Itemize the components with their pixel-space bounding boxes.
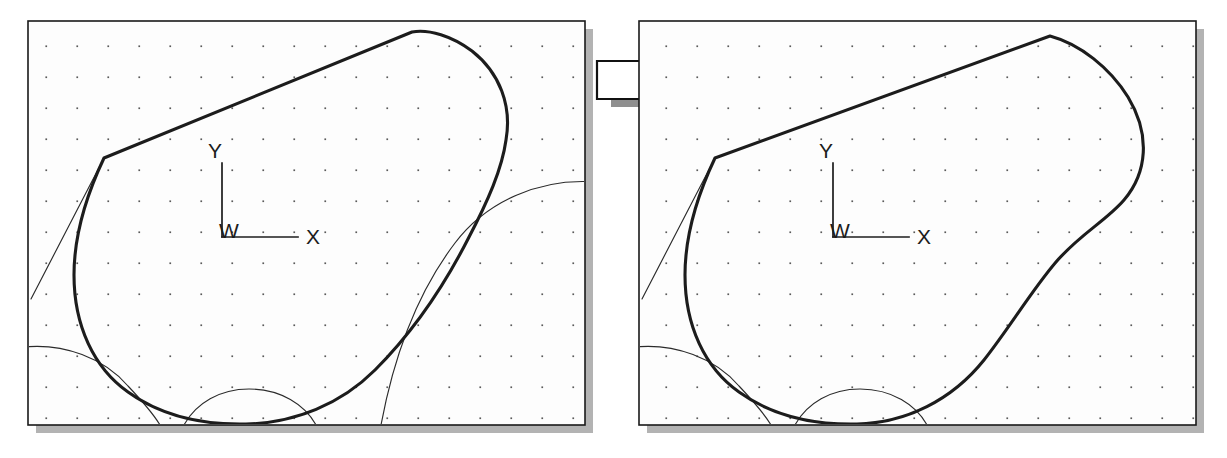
left-y-axis-label: Y: [208, 139, 222, 162]
left-panel-dot-grid: [29, 22, 584, 424]
geometry-transformation-figure: Y W X Y W X: [0, 0, 1227, 458]
left-origin-label: W: [219, 219, 239, 242]
right-panel-dot-grid: [640, 22, 1195, 424]
left-panel: Y W X: [24, 21, 595, 433]
left-x-axis-label: X: [306, 225, 320, 248]
right-x-axis-label: X: [917, 225, 931, 248]
right-origin-label: W: [830, 219, 850, 242]
right-panel: Y W X: [635, 21, 1204, 433]
right-y-axis-label: Y: [819, 139, 833, 162]
